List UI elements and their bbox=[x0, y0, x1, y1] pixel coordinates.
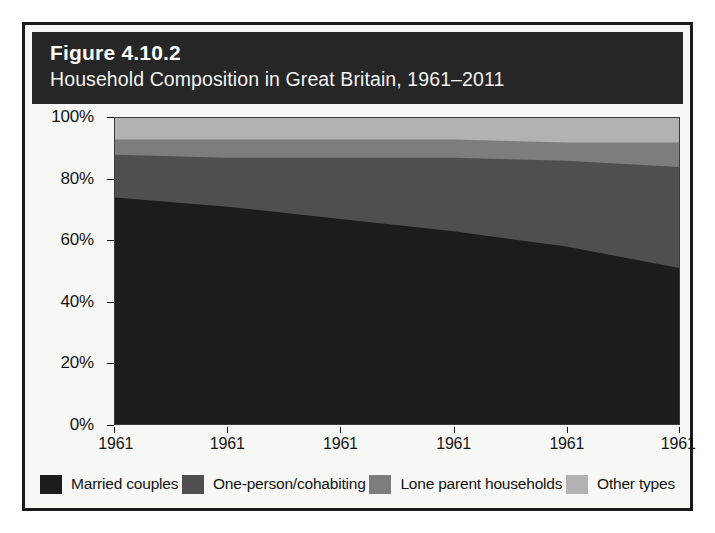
y-axis: 0%20%40%60%80%100% bbox=[32, 117, 104, 425]
x-axis-tick-label: 1961 bbox=[436, 435, 471, 453]
legend-item[interactable]: Married couples bbox=[40, 475, 178, 494]
chart-region: 0%20%40%60%80%100% 196119611961196119611… bbox=[32, 107, 683, 501]
x-axis-tick-label: 1961 bbox=[549, 435, 584, 453]
x-axis-tick-label: 1961 bbox=[323, 435, 358, 453]
plot-wrapper: 0%20%40%60%80%100% 196119611961196119611… bbox=[32, 117, 683, 457]
x-axis-tick-mark bbox=[227, 427, 228, 433]
x-axis-tick-label: 1961 bbox=[98, 435, 133, 453]
y-axis-tick-mark bbox=[107, 425, 114, 426]
legend-label: One-person/cohabiting bbox=[213, 475, 366, 493]
figure-number: Figure 4.10.2 bbox=[50, 40, 683, 65]
figure-subtitle: Household Composition in Great Britain, … bbox=[50, 65, 683, 94]
legend-swatch-lone-parent-households bbox=[369, 475, 391, 494]
figure-title-banner: Figure 4.10.2 Household Composition in G… bbox=[32, 32, 683, 104]
stacked-area-svg bbox=[115, 118, 679, 424]
y-axis-tick-label: 20% bbox=[61, 353, 94, 373]
y-axis-tick-mark bbox=[107, 363, 114, 364]
x-axis-tick-mark bbox=[567, 427, 568, 433]
legend-item[interactable]: Other types bbox=[566, 475, 675, 494]
chart-legend: Married couplesOne-person/cohabitingLone… bbox=[40, 469, 675, 499]
y-axis-tick-mark bbox=[107, 302, 114, 303]
legend-label: Lone parent households bbox=[400, 475, 562, 493]
y-axis-tick-mark bbox=[107, 240, 114, 241]
x-axis-tick-mark bbox=[454, 427, 455, 433]
legend-swatch-married-couples bbox=[40, 475, 62, 494]
x-axis-tick-mark bbox=[114, 427, 115, 433]
y-axis-tick-label: 100% bbox=[51, 107, 94, 127]
legend-label: Married couples bbox=[71, 475, 178, 493]
figure-card: Figure 4.10.2 Household Composition in G… bbox=[22, 22, 693, 511]
legend-swatch-other-types bbox=[566, 475, 588, 494]
legend-item[interactable]: Lone parent households bbox=[369, 475, 562, 494]
x-axis-tick-mark bbox=[340, 427, 341, 433]
x-axis: 196119611961196119611961 bbox=[114, 427, 680, 457]
x-axis-tick-label: 1961 bbox=[661, 435, 696, 453]
y-axis-tick-mark bbox=[107, 117, 114, 118]
y-axis-tick-label: 0% bbox=[70, 415, 94, 435]
legend-label: Other types bbox=[597, 475, 675, 493]
x-axis-tick-mark bbox=[679, 427, 680, 433]
y-axis-tick-label: 60% bbox=[61, 230, 94, 250]
x-axis-tick-label: 1961 bbox=[210, 435, 245, 453]
stacked-area-plot bbox=[114, 117, 680, 425]
legend-swatch-one-person-cohabiting bbox=[182, 475, 204, 494]
y-axis-tick-mark bbox=[107, 179, 114, 180]
legend-item[interactable]: One-person/cohabiting bbox=[182, 475, 366, 494]
y-axis-tick-label: 80% bbox=[61, 169, 94, 189]
y-axis-tick-label: 40% bbox=[61, 292, 94, 312]
